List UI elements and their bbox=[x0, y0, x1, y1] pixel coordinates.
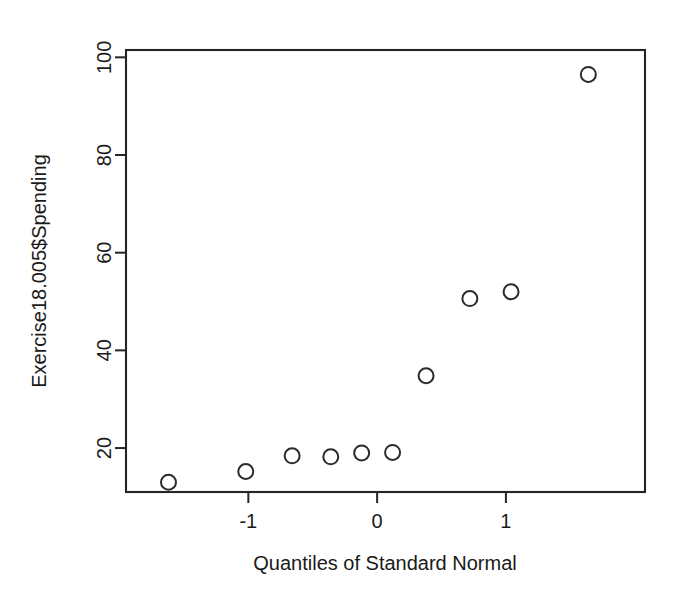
x-tick-label: -1 bbox=[239, 510, 257, 532]
qq-plot-figure: 20406080100 -101 Exercise18.005$Spending… bbox=[0, 0, 676, 600]
y-tick-label: 80 bbox=[93, 144, 115, 166]
x-tick-label: 0 bbox=[372, 510, 383, 532]
x-tick-label: 1 bbox=[500, 510, 511, 532]
y-tick-label: 20 bbox=[93, 437, 115, 459]
scatter-plot-canvas: 20406080100 -101 Exercise18.005$Spending… bbox=[0, 0, 676, 600]
y-tick-label: 40 bbox=[93, 339, 115, 361]
y-axis-title: Exercise18.005$Spending bbox=[28, 154, 50, 388]
x-axis-title: Quantiles of Standard Normal bbox=[253, 552, 516, 574]
y-tick-label: 100 bbox=[93, 41, 115, 74]
figure-background bbox=[0, 0, 676, 600]
y-tick-label: 60 bbox=[93, 242, 115, 264]
